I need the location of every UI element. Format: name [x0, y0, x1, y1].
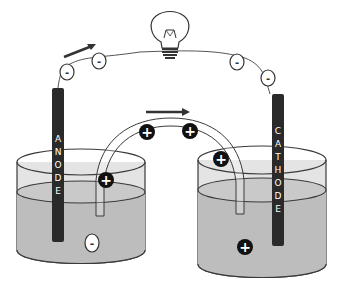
- electron-3: -: [230, 54, 244, 70]
- svg-text:-: -: [97, 56, 101, 67]
- svg-text:+: +: [100, 172, 112, 188]
- cation-bridge-4: +: [213, 151, 229, 167]
- svg-text:T: T: [274, 152, 281, 162]
- svg-text:+: +: [215, 151, 227, 167]
- svg-text:+: +: [184, 123, 196, 139]
- svg-text:+: +: [141, 124, 153, 140]
- svg-text:A: A: [275, 139, 282, 149]
- svg-text:E: E: [275, 204, 281, 214]
- electron-4: -: [261, 70, 275, 86]
- svg-text:-: -: [65, 67, 69, 78]
- cation-flow-arrow: [146, 108, 190, 116]
- cation-bridge-2: +: [139, 124, 155, 140]
- svg-text:D: D: [275, 191, 282, 201]
- svg-text:A: A: [55, 134, 62, 144]
- anode-beaker: [17, 149, 145, 264]
- svg-text:C: C: [275, 126, 281, 136]
- svg-text:N: N: [55, 147, 62, 157]
- svg-text:-: -: [266, 73, 270, 84]
- svg-text:-: -: [90, 237, 95, 250]
- cation-bridge-1: +: [98, 172, 114, 188]
- svg-text:-: -: [235, 57, 239, 68]
- svg-text:H: H: [275, 165, 282, 175]
- electron-2: -: [92, 53, 106, 69]
- galvanic-cell-diagram: - - - - A N O D: [0, 0, 342, 292]
- electron-1: -: [60, 64, 74, 80]
- cation-bridge-3: +: [182, 123, 198, 139]
- svg-text:+: +: [239, 239, 251, 255]
- cathode-electrode: C A T H O D E: [272, 94, 284, 246]
- cation-cathode-solution: +: [237, 239, 253, 255]
- svg-text:E: E: [55, 186, 61, 196]
- anode-electrode: A N O D E: [52, 88, 64, 242]
- anion-anode-solution: -: [85, 234, 99, 252]
- svg-text:O: O: [274, 178, 281, 188]
- electron-flow-arrow: [64, 44, 96, 57]
- svg-text:D: D: [55, 173, 62, 183]
- svg-text:O: O: [54, 160, 61, 170]
